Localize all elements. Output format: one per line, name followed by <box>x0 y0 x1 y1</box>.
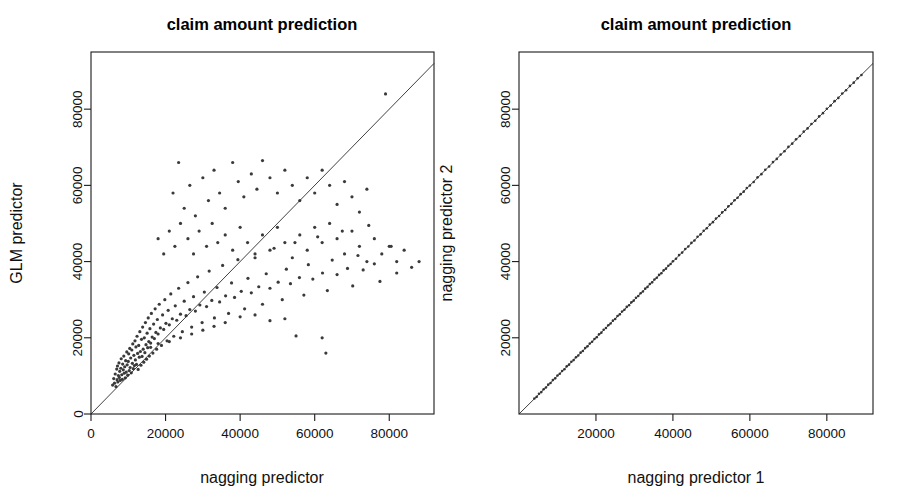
x-tick-label: 0 <box>87 426 95 441</box>
data-point <box>257 285 260 288</box>
data-point <box>205 245 208 248</box>
data-point <box>328 222 331 225</box>
data-point <box>192 252 195 255</box>
data-point <box>384 92 387 95</box>
data-point <box>289 282 292 285</box>
data-point <box>156 318 159 321</box>
data-point <box>148 327 151 330</box>
data-point <box>177 161 180 164</box>
data-point <box>281 298 284 301</box>
data-point <box>157 332 160 335</box>
data-point <box>168 323 171 326</box>
data-point <box>227 312 230 315</box>
x-tick-label: 80000 <box>808 426 846 441</box>
data-point <box>137 368 140 371</box>
data-point <box>160 344 163 347</box>
data-point <box>233 296 236 299</box>
data-point <box>127 352 130 355</box>
right-y-axis-title: nagging predictor 2 <box>438 164 455 301</box>
data-point <box>114 372 117 375</box>
data-point <box>307 263 310 266</box>
data-point <box>127 360 130 363</box>
y-tick-label: 20000 <box>71 319 86 357</box>
data-point <box>365 188 368 191</box>
data-point <box>177 287 180 290</box>
data-point <box>351 284 354 287</box>
y-tick-label: 40000 <box>71 243 86 281</box>
data-point <box>291 184 294 187</box>
data-point <box>173 245 176 248</box>
right-plot-title: claim amount prediction <box>601 15 792 33</box>
data-point <box>186 237 189 240</box>
data-point <box>313 191 316 194</box>
left-plot-title: claim amount prediction <box>167 15 358 33</box>
data-point <box>136 352 139 355</box>
data-point <box>283 169 286 172</box>
y-tick-label: 60000 <box>499 167 514 205</box>
data-point <box>211 222 214 225</box>
data-point <box>324 351 327 354</box>
data-point <box>326 289 329 292</box>
data-point <box>212 325 215 328</box>
data-point <box>246 277 249 280</box>
data-point <box>115 367 118 370</box>
data-point <box>231 161 234 164</box>
data-point <box>255 188 258 191</box>
y-tick-label: 80000 <box>499 90 514 128</box>
data-point <box>224 294 227 297</box>
data-point <box>149 342 152 345</box>
data-point <box>298 233 301 236</box>
data-point <box>395 271 398 274</box>
data-point <box>268 319 271 322</box>
data-point <box>261 303 264 306</box>
data-point <box>242 195 245 198</box>
data-point <box>335 273 338 276</box>
data-point <box>154 307 157 310</box>
data-point <box>316 235 319 238</box>
data-point <box>146 346 149 349</box>
data-point <box>224 207 227 210</box>
data-point <box>159 326 162 329</box>
data-point <box>253 313 256 316</box>
data-point <box>358 245 361 248</box>
data-point <box>142 348 145 351</box>
data-point <box>250 291 253 294</box>
data-point <box>403 249 406 252</box>
data-point <box>171 191 174 194</box>
data-point <box>268 249 271 252</box>
data-point <box>125 370 128 373</box>
data-point <box>335 203 338 206</box>
data-point <box>298 276 301 279</box>
data-point <box>207 199 210 202</box>
x-tick-label: 80000 <box>370 426 408 441</box>
data-point <box>243 307 246 310</box>
data-point <box>358 210 361 213</box>
data-point <box>236 258 239 261</box>
data-point <box>130 348 133 351</box>
data-point <box>265 272 268 275</box>
data-point <box>306 249 309 252</box>
data-point <box>168 340 171 343</box>
data-point <box>321 271 324 274</box>
data-point <box>167 309 170 312</box>
data-point <box>122 368 125 371</box>
data-point <box>380 252 383 255</box>
data-point <box>240 290 243 293</box>
data-point <box>179 336 182 339</box>
x-tick-label: 40000 <box>654 426 692 441</box>
data-point <box>146 332 149 335</box>
data-point <box>135 335 138 338</box>
data-point <box>153 337 156 340</box>
right-x-axis-title: nagging predictor 1 <box>628 469 765 486</box>
data-point <box>198 229 201 232</box>
data-point <box>272 247 275 250</box>
data-point <box>196 275 199 278</box>
y-tick-label: 20000 <box>499 319 514 357</box>
two-panel-scatter-figure: claim amount prediction 0200004000060000… <box>0 0 898 501</box>
data-point <box>283 241 286 244</box>
data-point <box>306 176 309 179</box>
data-point <box>335 237 338 240</box>
data-point <box>213 316 216 319</box>
data-point <box>362 268 365 271</box>
data-point <box>132 354 135 357</box>
